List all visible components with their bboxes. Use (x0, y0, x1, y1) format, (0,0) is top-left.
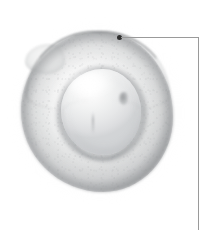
inner-body-highlight (68, 71, 118, 101)
annotation-leader-line-horizontal (121, 37, 199, 38)
specimen-container (0, 0, 215, 230)
micrograph-figure (0, 0, 215, 230)
inner-body-notch (119, 92, 128, 105)
annotation-leader-line-vertical (198, 37, 199, 230)
inner-body-crease (92, 112, 94, 134)
